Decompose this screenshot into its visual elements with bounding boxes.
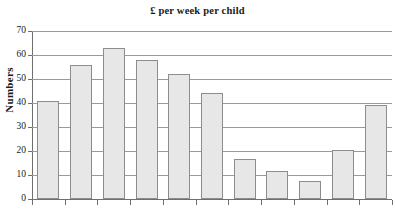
bar bbox=[365, 105, 387, 199]
y-axis-tick-mark bbox=[28, 175, 32, 176]
y-axis-tick-label: 20 bbox=[4, 146, 26, 155]
y-axis-tick-mark bbox=[28, 31, 32, 32]
bar bbox=[168, 74, 190, 199]
bar bbox=[70, 65, 92, 199]
y-axis-tick-mark bbox=[28, 199, 32, 200]
y-axis-tick-mark bbox=[28, 55, 32, 56]
y-axis-tick-label: 50 bbox=[4, 74, 26, 83]
x-axis-tick-mark bbox=[196, 200, 197, 205]
x-axis-tick-mark bbox=[130, 200, 131, 205]
y-axis-tick-labels: 706050403020100 bbox=[0, 0, 26, 220]
x-axis-tick-mark bbox=[65, 200, 66, 205]
bar bbox=[332, 150, 354, 199]
y-axis-tick-mark bbox=[28, 151, 32, 152]
x-axis-tick-mark bbox=[97, 200, 98, 205]
y-axis-tick-label: 30 bbox=[4, 122, 26, 131]
x-axis-tick-mark bbox=[32, 200, 33, 205]
bar bbox=[136, 60, 158, 199]
y-axis-tick-mark bbox=[28, 103, 32, 104]
x-axis-tick-mark bbox=[294, 200, 295, 205]
y-axis-tick-mark bbox=[28, 79, 32, 80]
plot-area bbox=[32, 31, 392, 199]
bar bbox=[103, 48, 125, 199]
bar bbox=[201, 93, 223, 199]
bar bbox=[299, 181, 321, 199]
bar bbox=[37, 101, 59, 199]
chart-title: £ per week per child bbox=[0, 5, 395, 16]
x-axis-tick-mark bbox=[228, 200, 229, 205]
bar-chart: £ per week per child Numbers 70605040302… bbox=[0, 0, 395, 220]
x-axis-tick-mark bbox=[261, 200, 262, 205]
x-axis-tick-mark bbox=[392, 200, 393, 205]
y-axis-tick-label: 10 bbox=[4, 170, 26, 179]
y-axis-tick-label: 0 bbox=[4, 194, 26, 203]
y-axis-tick-label: 60 bbox=[4, 50, 26, 59]
y-axis-tick-mark bbox=[28, 127, 32, 128]
x-axis-tick-mark bbox=[327, 200, 328, 205]
gridline bbox=[32, 55, 392, 56]
x-axis-tick-mark bbox=[163, 200, 164, 205]
bar bbox=[266, 171, 288, 199]
gridline bbox=[32, 31, 392, 32]
y-axis-tick-label: 70 bbox=[4, 26, 26, 35]
bar bbox=[234, 159, 256, 199]
y-axis-tick-label: 40 bbox=[4, 98, 26, 107]
x-axis-tick-mark bbox=[359, 200, 360, 205]
x-axis-tick-marks bbox=[32, 200, 394, 206]
